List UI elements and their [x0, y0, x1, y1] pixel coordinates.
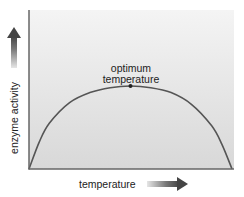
y-axis-label: enzyme activity [8, 81, 20, 154]
enzyme-activity-chart: optimum temperature enzyme activity temp… [0, 0, 244, 197]
y-axis-arrow-up-icon [7, 27, 21, 68]
annotation-temperature: temperature [103, 73, 160, 85]
plot-area [29, 10, 234, 169]
x-axis-arrow-right-icon [147, 177, 188, 191]
x-axis-label: temperature [79, 178, 136, 190]
